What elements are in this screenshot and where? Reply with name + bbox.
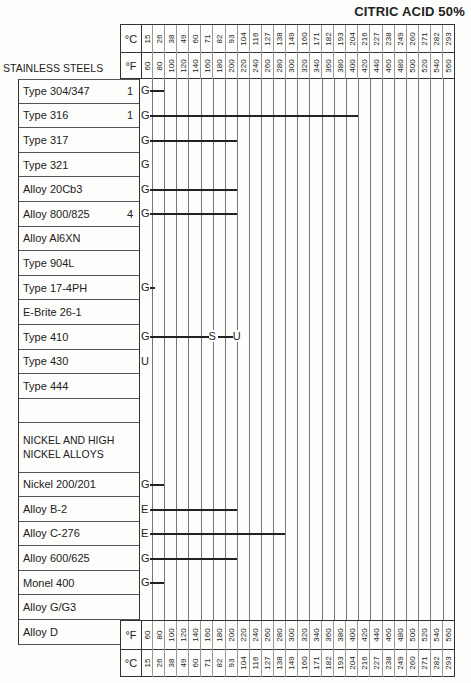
tick-label: 440 — [369, 52, 381, 79]
tick-text: 93 — [227, 659, 236, 668]
tick-label: 160 — [200, 52, 212, 79]
tick-text: 160 — [299, 32, 308, 45]
grid-line — [418, 79, 419, 620]
tick-label: 38 — [164, 649, 176, 677]
fahrenheit-unit-label: °F — [121, 52, 142, 79]
rating-letter: G — [141, 207, 150, 219]
tick-label: 360 — [321, 52, 333, 79]
rating-bar — [150, 90, 164, 92]
chart-title: CITRIC ACID 50% — [354, 4, 465, 19]
grid-line — [358, 79, 359, 620]
rating-letter: G — [141, 478, 150, 490]
tick-label: 149 — [285, 649, 297, 677]
tick-label: 193 — [333, 25, 345, 52]
celsius-ticks: 1526384960718293104116127138149160171182… — [141, 25, 454, 52]
footnote-ref: 4 — [127, 208, 133, 220]
rating-letter: G — [141, 84, 150, 96]
tick-label: 280 — [273, 52, 285, 79]
tick-label: 220 — [237, 52, 249, 79]
grid-line — [370, 79, 371, 620]
tick-text: 440 — [372, 59, 381, 72]
tick-text: 360 — [323, 628, 332, 641]
tick-text: 238 — [384, 32, 393, 45]
tick-label: 420 — [357, 52, 369, 79]
tick-label: 300 — [285, 52, 297, 79]
tick-label: 520 — [418, 52, 430, 79]
rating-bar — [150, 115, 358, 117]
tick-label: 60 — [188, 25, 200, 52]
tick-label: 271 — [418, 649, 430, 677]
tick-text: 82 — [215, 34, 224, 43]
material-name: Type 430 — [23, 355, 68, 367]
tick-label: 249 — [394, 25, 406, 52]
tick-label: 260 — [261, 621, 273, 649]
celsius-footer-row: °C 1526384960718293104116127138149160171… — [121, 649, 454, 677]
tick-text: 293 — [444, 32, 453, 45]
material-row: Alloy 600/625 — [19, 546, 139, 571]
material-name: Type 444 — [23, 380, 68, 392]
tick-text: 216 — [359, 656, 368, 669]
material-row: Nickel 200/201 — [19, 473, 139, 498]
tick-label: 160 — [200, 621, 212, 649]
tick-label: 282 — [430, 25, 442, 52]
tick-label: 82 — [212, 25, 224, 52]
grid-line — [201, 79, 202, 620]
tick-text: 160 — [202, 628, 211, 641]
material-row: Alloy Al6XN — [19, 227, 139, 252]
material-name: Alloy C-276 — [23, 527, 80, 539]
grid-line — [249, 79, 250, 620]
tick-label: 560 — [442, 52, 454, 79]
tick-text: 60 — [190, 659, 199, 668]
tick-text: 38 — [166, 659, 175, 668]
tick-label: 104 — [237, 649, 249, 677]
temperature-footer: °F 6080100120140160180200220240260280300… — [120, 620, 455, 677]
grid-line — [322, 79, 323, 620]
tick-label: 220 — [237, 621, 249, 649]
tick-text: 260 — [263, 59, 272, 72]
tick-text: 193 — [335, 32, 344, 45]
material-row: Alloy 20Cb3 — [19, 177, 139, 202]
tick-label: 271 — [418, 25, 430, 52]
material-row: Type 3161 — [19, 104, 139, 129]
tick-text: 271 — [420, 32, 429, 45]
tick-label: 60 — [141, 621, 152, 649]
tick-text: 240 — [251, 59, 260, 72]
rating-bar — [150, 484, 164, 486]
tick-label: 182 — [321, 649, 333, 677]
tick-label: 240 — [249, 621, 261, 649]
material-name: Alloy B-2 — [23, 503, 67, 515]
tick-label: 15 — [141, 649, 152, 677]
rating-grid: GGGGGGGGSUUGEEGGE — [140, 79, 455, 620]
tick-label: 400 — [345, 621, 357, 649]
rating-letter: G — [141, 183, 150, 195]
material-row: E-Brite 26-1 — [19, 300, 139, 325]
rating-letter: G — [141, 281, 150, 293]
tick-text: 149 — [287, 656, 296, 669]
tick-text: 238 — [384, 656, 393, 669]
tick-text: 340 — [311, 628, 320, 641]
tick-label: 60 — [188, 649, 200, 677]
tick-text: 300 — [287, 59, 296, 72]
tick-text: 100 — [166, 59, 175, 72]
tick-text: 100 — [166, 628, 175, 641]
tick-label: 171 — [309, 649, 321, 677]
grid-line — [152, 79, 153, 620]
tick-text: 460 — [384, 59, 393, 72]
rating-letter: G — [141, 330, 150, 342]
material-name: Nickel 200/201 — [23, 478, 96, 490]
tick-text: 227 — [372, 32, 381, 45]
tick-text: 116 — [251, 657, 260, 670]
grid-line — [188, 79, 189, 620]
tick-label: 260 — [261, 52, 273, 79]
tick-label: 26 — [152, 649, 164, 677]
tick-label: 340 — [309, 52, 321, 79]
tick-label: 380 — [333, 621, 345, 649]
material-name: E-Brite 26-1 — [23, 306, 82, 318]
tick-label: 560 — [442, 621, 454, 649]
tick-label: 249 — [394, 649, 406, 677]
tick-text: 440 — [372, 628, 381, 641]
tick-label: 180 — [212, 52, 224, 79]
rating-letter: E — [141, 503, 148, 515]
temperature-header: °C 1526384960718293104116127138149160171… — [120, 24, 455, 79]
tick-label: 238 — [382, 25, 394, 52]
